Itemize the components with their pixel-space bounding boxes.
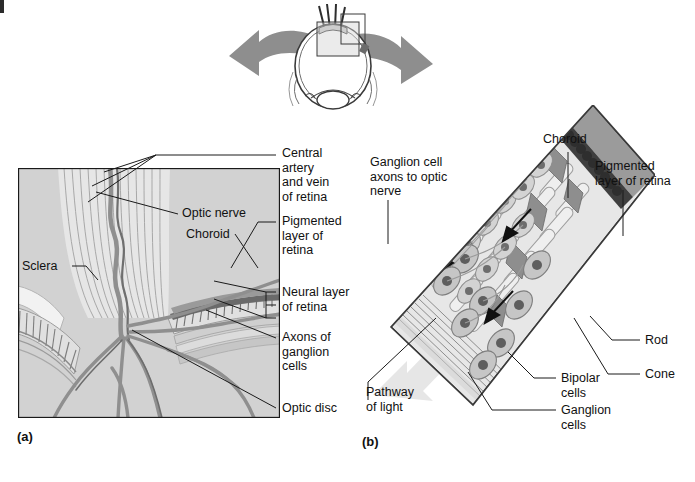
leader-rod <box>590 316 640 340</box>
label-choroid-b: Choroid <box>543 132 587 147</box>
leader-cone <box>574 318 640 374</box>
leader-bipolar <box>508 352 556 378</box>
label-cone: Cone <box>645 367 675 382</box>
label-bipolar-cells: Bipolar cells <box>561 371 600 400</box>
label-pigmented-layer-b: Pigmented layer of retina <box>595 159 671 188</box>
label-rod: Rod <box>645 333 668 348</box>
label-ganglion-cells: Ganglion cells <box>561 403 611 432</box>
page-edge-mark <box>0 0 4 13</box>
figure-canvas: Central artery and vein of retina Optic … <box>0 0 695 482</box>
label-ganglion-cell-axons: Ganglion cell axons to optic nerve <box>370 155 447 199</box>
label-pathway-of-light: Pathway of light <box>366 385 414 414</box>
panel-b-letter: (b) <box>362 434 379 449</box>
